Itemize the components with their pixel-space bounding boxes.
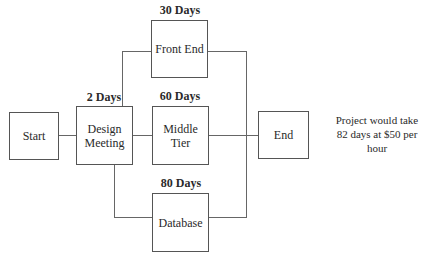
edge-design-frontend-horizontal (122, 51, 151, 52)
edge-merge-vertical (246, 51, 247, 218)
node-design-label: Design Meeting (82, 122, 128, 150)
edge-design-database-horizontal (114, 217, 152, 218)
edge-frontend-end (208, 51, 246, 52)
middletier-duration: 60 Days (145, 89, 215, 104)
design-duration: 2 Days (69, 90, 139, 105)
node-database-label: Database (159, 216, 203, 230)
frontend-duration: 30 Days (145, 3, 215, 18)
node-end-label: End (274, 128, 293, 142)
node-database: Database (152, 193, 209, 252)
node-start: Start (9, 112, 59, 160)
project-note: Project would take 82 days at $50 per ho… (332, 113, 422, 155)
edge-database-end (209, 217, 246, 218)
node-front-end: Front End (151, 20, 208, 78)
node-middletier-label: Middle Tier (161, 122, 201, 150)
node-middle-tier: Middle Tier (152, 106, 209, 165)
edge-middletier-end (208, 135, 258, 136)
node-start-label: Start (23, 129, 46, 143)
edge-design-database-vertical (114, 165, 115, 218)
database-duration: 80 Days (146, 176, 216, 191)
node-frontend-label: Front End (155, 42, 203, 56)
edge-start-design (59, 135, 76, 136)
node-design-meeting: Design Meeting (76, 106, 133, 165)
node-end: End (258, 111, 309, 159)
edge-design-middletier (132, 135, 152, 136)
